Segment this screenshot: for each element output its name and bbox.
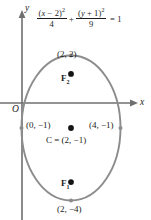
right-vertex-label: (4, −1)	[89, 121, 114, 130]
y-axis-label: y	[25, 4, 29, 14]
marker-right-vertex	[119, 126, 123, 130]
origin-label: O	[12, 105, 19, 115]
focus-upper-index: 2	[67, 79, 70, 85]
focus-upper-label: F2	[61, 74, 70, 83]
equation-operator: +	[69, 14, 74, 24]
term-2-offset: + 1	[85, 8, 99, 18]
x-axis-label: x	[140, 98, 144, 108]
equation-right-side: = 1	[110, 14, 121, 24]
focus-lower-label: F1	[61, 179, 70, 188]
exponent: 2	[101, 7, 104, 13]
marker-bottom-vertex	[69, 199, 73, 203]
equation-term-2-denominator: 9	[89, 19, 93, 28]
focus-lower-index: 1	[67, 184, 70, 190]
equation-term-1-numerator: (x − 2)2	[37, 9, 67, 18]
x-axis-arrowhead	[130, 100, 138, 107]
center-dot	[68, 125, 74, 131]
equation-term-1-denominator: 4	[50, 19, 54, 28]
term-1-offset: − 2	[45, 8, 59, 18]
equation-term-2-numerator: (y + 1)2	[76, 9, 106, 18]
center-label: C = (2, −1)	[46, 136, 86, 145]
bottom-vertex-label: (2, −4)	[57, 205, 82, 214]
figure-canvas	[0, 0, 151, 220]
top-vertex-label: (2, 2)	[57, 50, 77, 59]
equation-term-1: (x − 2)2 4	[37, 9, 67, 29]
left-vertex-label: (0, −1)	[26, 121, 51, 130]
ellipse-figure: (x − 2)2 4 + (y + 1)2 9 = 1 y x O (2, 2)…	[0, 0, 151, 220]
equation-term-2: (y + 1)2 9	[76, 9, 106, 29]
marker-left-vertex	[20, 126, 24, 130]
exponent: 2	[62, 7, 65, 13]
ellipse-equation: (x − 2)2 4 + (y + 1)2 9 = 1	[36, 9, 122, 29]
